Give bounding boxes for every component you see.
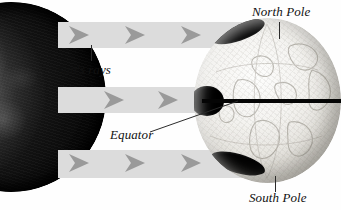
ray-arrowhead: [68, 153, 90, 173]
suns-rays-leader-line: [91, 45, 92, 61]
ray-arrowhead: [124, 25, 146, 45]
north-pole-leader-line: [279, 22, 280, 39]
label-equator: Equator: [110, 127, 153, 143]
equator-leader-line: [150, 99, 240, 134]
label-south-pole: South Pole: [249, 190, 307, 206]
ray-arrowhead: [103, 90, 125, 110]
ray-arrowhead: [68, 25, 90, 45]
label-north-pole: North Pole: [252, 4, 310, 20]
ray-arrowhead: [124, 153, 146, 173]
label-suns-rays: Sun's rays: [57, 62, 111, 78]
earth-sun-rays-diagram: North Pole South Pole Sun's rays Equator: [0, 0, 341, 210]
